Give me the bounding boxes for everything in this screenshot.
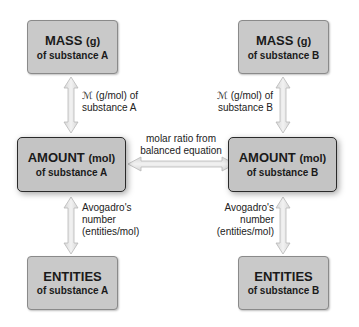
box-title: AMOUNT bbox=[239, 150, 296, 165]
double-arrow-icon bbox=[128, 157, 235, 171]
amount-b-box: AMOUNT (mol) of substance B bbox=[228, 137, 337, 192]
box-title: ENTITIES bbox=[43, 269, 102, 284]
avogadro-a-label: Avogadro's number (entities/mol) bbox=[82, 202, 139, 238]
box-unit: (g) bbox=[86, 35, 100, 47]
box-title: AMOUNT bbox=[28, 150, 85, 165]
mass-b-box: MASS (g) of substance B bbox=[238, 20, 329, 74]
molar-ratio-label: molar ratio from balanced equation bbox=[126, 133, 236, 157]
double-arrow-icon bbox=[64, 197, 78, 254]
molar-mass-b-label: ℳ (g/mol) of substance B bbox=[217, 90, 273, 114]
mass-a-box: MASS (g) of substance A bbox=[27, 20, 118, 74]
double-arrow-icon bbox=[64, 77, 78, 133]
molar-mass-a-label: ℳ (g/mol) of substance A bbox=[82, 90, 138, 114]
entities-b-box: ENTITIES of substance B bbox=[238, 256, 329, 310]
box-title: MASS bbox=[45, 33, 83, 48]
box-subtitle: of substance A bbox=[37, 49, 108, 62]
double-arrow-icon bbox=[276, 77, 290, 133]
box-subtitle: of substance B bbox=[248, 284, 320, 297]
box-subtitle: of substance A bbox=[37, 284, 108, 297]
box-subtitle: of substance B bbox=[247, 166, 319, 179]
double-arrow-icon bbox=[276, 197, 290, 254]
box-title: MASS bbox=[256, 33, 294, 48]
box-unit: (mol) bbox=[88, 152, 115, 164]
box-unit: (g) bbox=[297, 35, 311, 47]
avogadro-b-label: Avogadro's number (entities/mol) bbox=[209, 202, 274, 238]
box-subtitle: of substance A bbox=[36, 166, 107, 179]
box-title: ENTITIES bbox=[254, 269, 313, 284]
box-subtitle: of substance B bbox=[248, 49, 320, 62]
box-unit: (mol) bbox=[299, 152, 326, 164]
amount-a-box: AMOUNT (mol) of substance A bbox=[17, 137, 126, 192]
entities-a-box: ENTITIES of substance A bbox=[27, 256, 118, 310]
